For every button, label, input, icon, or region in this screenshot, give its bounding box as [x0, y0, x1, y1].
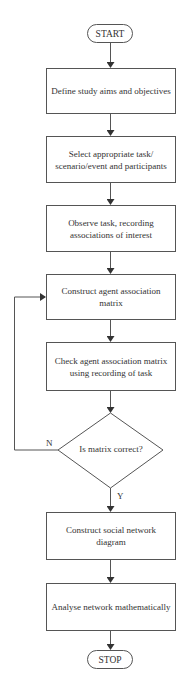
step-select-task: Select appropriate task/ scenario/event …: [46, 136, 176, 183]
step-construct-matrix: Construct agent association matrix: [46, 274, 176, 320]
step-analyse-network: Analyse network mathematically: [46, 583, 176, 631]
yes-label: Y: [117, 491, 124, 501]
step-construct-diagram: Construct social network diagram: [46, 512, 176, 560]
step-check-matrix: Check agent association matrix using rec…: [46, 342, 176, 391]
no-label: N: [46, 438, 53, 448]
step-observe-task: Observe task, recording associations of …: [46, 205, 176, 252]
start-terminal: START: [87, 24, 133, 43]
step-define-aims: Define study aims and objectives: [46, 68, 176, 114]
decision-label: Is matrix correct?: [62, 444, 160, 454]
stop-terminal: STOP: [87, 650, 133, 669]
